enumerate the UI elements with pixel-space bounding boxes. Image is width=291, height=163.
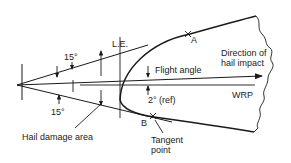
- tangent-label-line2: point: [151, 145, 171, 155]
- tangent-label-line1: Tangent: [151, 135, 184, 145]
- hail-impact-diagram: 15° 15° L.E. A B Direction of hail impac…: [0, 0, 291, 163]
- direction-label-line2: hail impact: [221, 58, 265, 68]
- point-b-label: B: [141, 118, 147, 128]
- hail-damage-leader-line: [75, 104, 101, 128]
- flight-angle-label: Flight angle: [155, 65, 202, 75]
- point-a-label: A: [191, 35, 197, 45]
- leading-edge-label: L.E.: [112, 39, 128, 49]
- hail-impact-direction-arrow: [17, 76, 262, 85]
- direction-label-line1: Direction of: [221, 48, 267, 58]
- lower-angle-label: 15°: [51, 107, 65, 117]
- upper-angle-label: 15°: [64, 52, 78, 62]
- hail-damage-area-label: Hail damage area: [22, 132, 93, 142]
- wing-break-line: [254, 16, 273, 132]
- ref-angle-label: 2° (ref): [148, 95, 176, 105]
- tangent-leader-line: [155, 120, 163, 133]
- upper-15-degree-line: [17, 45, 148, 85]
- wrp-label: WRP: [232, 90, 253, 100]
